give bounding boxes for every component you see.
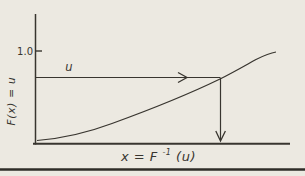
x-axis-label-tail: (u) — [176, 149, 196, 164]
scanned-page: 1.0 u F(x) = u x = F -1 (u) — [0, 0, 305, 176]
u-label: u — [65, 60, 72, 74]
x-axis-label-base: x = F — [120, 149, 158, 164]
cdf-inverse-diagram: 1.0 u F(x) = u x = F -1 (u) — [0, 0, 305, 176]
y-axis-label: F(x) = u — [5, 77, 17, 126]
x-axis-label-superscript: -1 — [162, 148, 171, 157]
y-tick-label: 1.0 — [17, 46, 33, 57]
